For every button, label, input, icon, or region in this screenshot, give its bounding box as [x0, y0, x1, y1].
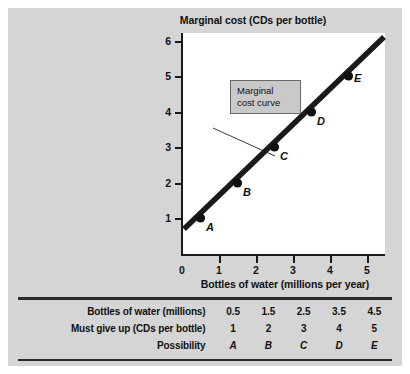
table-cell: 3 — [286, 320, 321, 337]
table-cell: 4 — [321, 320, 356, 337]
table-cell: 2 — [251, 320, 286, 337]
data-point-d — [307, 107, 316, 116]
table-cell: D — [321, 337, 356, 354]
table-cell: B — [251, 337, 286, 354]
data-point-label-c: C — [280, 150, 288, 162]
data-point-e — [344, 71, 353, 80]
table-rule-bottom — [18, 359, 392, 361]
table-row: Must give up (CDs per bottle) 1 2 3 4 5 — [18, 320, 392, 337]
marginal-cost-curve-line — [184, 37, 384, 229]
data-point-label-b: B — [243, 186, 251, 198]
data-point-label-e: E — [354, 72, 361, 84]
table-row-label-give-up: Must give up (CDs per bottle) — [18, 320, 215, 337]
table-cell: 0.5 — [215, 303, 250, 320]
table-cell: 3.5 — [321, 303, 356, 320]
table-cell: 2.5 — [286, 303, 321, 320]
table-cell: A — [215, 337, 250, 354]
table-row-label-possibility: Possibility — [18, 337, 215, 354]
table-cell: 1 — [215, 320, 250, 337]
table-cell: E — [357, 337, 392, 354]
annotation-line-1: Marginal — [237, 85, 295, 97]
data-point-label-d: D — [317, 115, 325, 127]
data-point-b — [233, 178, 242, 187]
data-table-block: Bottles of water (millions) 0.5 1.5 2.5 … — [18, 297, 392, 363]
table-row: Bottles of water (millions) 0.5 1.5 2.5 … — [18, 303, 392, 320]
table-row: Possibility A B C D E — [18, 337, 392, 354]
table-cell: 1.5 — [251, 303, 286, 320]
marginal-cost-curve-svg — [8, 8, 402, 293]
data-point-label-a: A — [206, 221, 214, 233]
data-point-a — [196, 213, 205, 222]
table-row-label-bottles: Bottles of water (millions) — [18, 303, 215, 320]
figure-panel: Marginal cost (CDs per bottle) 1 2 3 4 5… — [8, 8, 402, 366]
table-cell: 4.5 — [357, 303, 392, 320]
data-point-c — [270, 142, 279, 151]
data-table: Bottles of water (millions) 0.5 1.5 2.5 … — [18, 303, 392, 354]
table-cell: 5 — [357, 320, 392, 337]
table-rule-top — [18, 297, 392, 300]
annotation-line-2: cost curve — [237, 97, 295, 109]
table-cell: C — [286, 337, 321, 354]
annotation-callout: Marginal cost curve — [230, 80, 301, 114]
chart-block: Marginal cost (CDs per bottle) 1 2 3 4 5… — [8, 8, 402, 293]
